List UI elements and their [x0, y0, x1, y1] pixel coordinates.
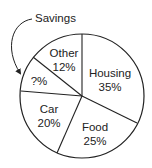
slice-car-name: Car: [40, 103, 59, 115]
slice-other-name: Other: [50, 47, 79, 59]
slice-unknown: ?%: [31, 75, 48, 87]
slice-housing-pct: 35%: [98, 81, 121, 93]
slice-car-pct: 20%: [37, 117, 60, 129]
slice-food-name: Food: [82, 121, 108, 133]
slice-other-pct: 12%: [52, 61, 75, 73]
pie-chart: Housing 35% Food 25% Car 20% ?% Other 12…: [0, 0, 152, 168]
slice-housing-name: Housing: [89, 67, 131, 79]
savings-annotation-label: Savings: [35, 12, 76, 24]
slice-food-pct: 25%: [83, 135, 106, 147]
pie-chart-svg: Housing 35% Food 25% Car 20% ?% Other 12…: [0, 0, 152, 168]
slice-unknown-pct: ?%: [31, 75, 48, 87]
